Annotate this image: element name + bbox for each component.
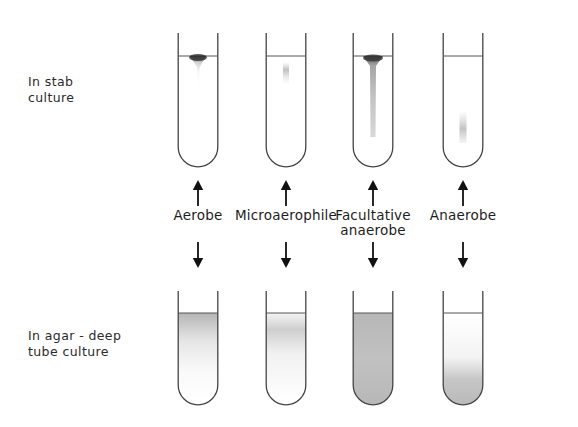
label-anaerobe: Anaerobe	[430, 208, 496, 223]
arrow-up-icon	[456, 180, 470, 206]
arrow-down-icon	[456, 242, 470, 268]
agar-tube-aerobe	[177, 291, 219, 407]
arrow-up-icon	[191, 180, 205, 206]
row-label-stab-culture: In stab culture	[28, 74, 74, 106]
connector-anaerobe: Anaerobe	[408, 180, 518, 272]
stab-tube-microaerophile	[265, 33, 307, 169]
stab-tube-anaerobe	[442, 33, 484, 169]
arrow-up-icon	[366, 180, 380, 206]
row-label-agar-deep-tube-culture: In agar - deep tube culture	[28, 328, 121, 360]
column-anaerobe: Anaerobe	[408, 0, 518, 427]
arrow-down-icon	[279, 242, 293, 268]
label-aerobe: Aerobe	[174, 208, 223, 223]
oxygen-requirement-figure: In stab culture In agar - deep tube cult…	[0, 0, 578, 427]
agar-tube-microaerophile	[265, 291, 307, 407]
agar-tube-facultative-anaerobe	[352, 291, 394, 407]
arrow-down-icon	[191, 242, 205, 268]
stab-tube-aerobe	[177, 33, 219, 169]
agar-tube-anaerobe	[442, 291, 484, 407]
arrow-down-icon	[366, 242, 380, 268]
arrow-up-icon	[279, 180, 293, 206]
stab-tube-facultative-anaerobe	[352, 33, 394, 169]
